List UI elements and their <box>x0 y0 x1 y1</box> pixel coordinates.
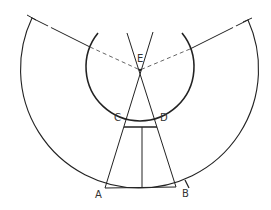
label-C: C <box>114 112 121 123</box>
right-radius-gap <box>233 26 236 28</box>
line-A-through-E <box>105 32 153 188</box>
label-D: D <box>160 112 168 123</box>
geometry-diagram: E C D A B <box>0 0 271 210</box>
tick-near-B <box>185 180 189 188</box>
outer-arc <box>21 18 259 188</box>
left-radius-solid <box>32 18 90 47</box>
label-B: B <box>182 188 189 199</box>
left-radius-gap <box>48 26 51 28</box>
line-B-through-E <box>127 33 176 187</box>
inner-arc <box>86 33 194 121</box>
right-radius-solid <box>190 20 248 49</box>
right-radius-dashed <box>140 49 190 70</box>
chord-AB <box>105 187 176 188</box>
label-A: A <box>95 189 102 200</box>
point-E <box>139 69 141 71</box>
label-E: E <box>137 53 143 64</box>
